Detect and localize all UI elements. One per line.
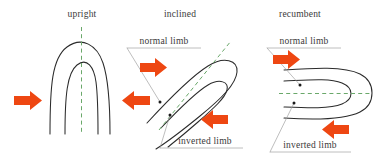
panel-title-upright: upright: [68, 9, 97, 19]
inverted-limb-label: inverted limb: [283, 140, 337, 150]
bedding-outer-arch: [50, 42, 110, 134]
panel-title-inclined: inclined: [164, 9, 196, 19]
lower-compression-arrow: [322, 120, 349, 139]
normal-limb-label: normal limb: [280, 36, 329, 46]
upper-compression-arrow: [140, 58, 167, 77]
inverted-limb-label: inverted limb: [178, 136, 232, 146]
normal-limb-label: normal limb: [140, 36, 189, 46]
diagram-canvas: upright inclined norm: [0, 0, 382, 157]
normal-limb-leader-line: [267, 48, 300, 85]
panel-title-recumbent: recumbent: [279, 9, 321, 19]
panel-upright: upright: [14, 9, 150, 134]
left-compression-arrow: [14, 91, 42, 110]
panel-recumbent: recumbent normal limb inverted limb: [267, 9, 372, 152]
upper-compression-arrow: [273, 50, 300, 69]
normal-limb-leader-dot: [159, 101, 162, 104]
inverted-limb-leader-dot: [169, 114, 172, 117]
right-compression-arrow: [122, 91, 150, 110]
inverted-limb-leader-dot: [293, 102, 296, 105]
normal-limb-leader-dot: [299, 84, 302, 87]
lower-compression-arrow: [201, 110, 228, 129]
panel-inclined: inclined normal limb inverted limb: [127, 9, 243, 149]
fold-attitude-diagram: upright inclined norm: [0, 0, 382, 157]
